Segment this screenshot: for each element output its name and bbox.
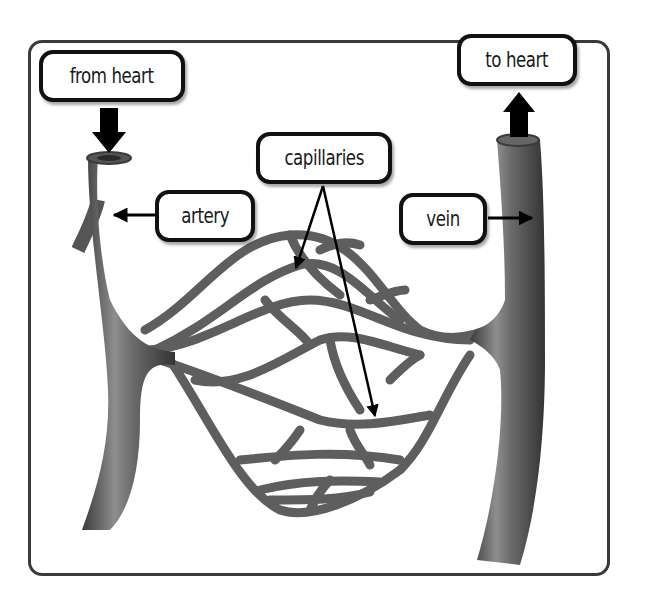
artery-label: artery <box>155 190 255 242</box>
to-heart-label: to heart <box>457 34 577 86</box>
from-heart-label: from heart <box>39 50 185 102</box>
to-heart-arrow <box>503 92 535 137</box>
capillaries-pointer-arrow-1 <box>296 186 323 268</box>
from-heart-arrow <box>92 108 126 153</box>
capillaries-label: capillaries <box>256 132 392 184</box>
vein-label: vein <box>399 193 487 245</box>
capillary-network <box>145 235 510 513</box>
